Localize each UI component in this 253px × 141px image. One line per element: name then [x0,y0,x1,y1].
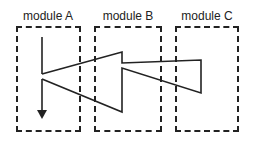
zigzag-flow-line [42,37,201,112]
flow-path [0,0,253,141]
arrowhead-down-icon [37,110,47,119]
